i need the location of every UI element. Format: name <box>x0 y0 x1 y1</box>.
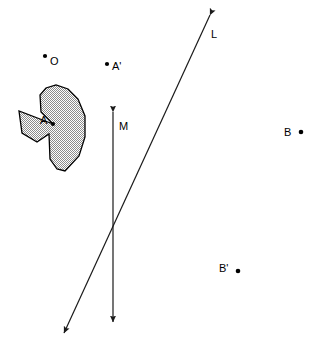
label-shape-A: A <box>40 114 48 126</box>
figure-canvas: O A A' B B' L M <box>0 0 313 347</box>
point-dot-O <box>43 54 47 58</box>
label-point-A-prime: A' <box>112 60 121 72</box>
point-dot-B <box>299 130 304 135</box>
label-line-M: M <box>119 120 128 132</box>
point-dot-B-prime <box>236 269 241 274</box>
point-dot-A <box>51 122 55 126</box>
label-point-O: O <box>50 55 59 67</box>
geometry-diagram: O A A' B B' L M <box>0 0 313 347</box>
point-dot-A-prime <box>105 62 109 66</box>
label-point-B: B <box>284 126 291 138</box>
label-line-L: L <box>211 28 217 40</box>
shape-region-A <box>19 85 85 171</box>
line-L <box>64 15 210 333</box>
label-point-B-prime: B' <box>219 262 228 274</box>
